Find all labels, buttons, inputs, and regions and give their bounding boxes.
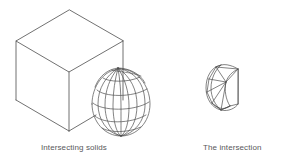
cube-wireframe [16,10,123,131]
caption-the-intersection: The intersection [203,143,262,153]
figure-root: Intersecting solids The intersection [0,0,288,161]
caption-intersecting-solids: Intersecting solids [41,143,107,153]
sphere-wireframe [92,68,150,136]
illustration-svg [0,0,288,161]
intersection-solid-wireframe [206,65,238,111]
